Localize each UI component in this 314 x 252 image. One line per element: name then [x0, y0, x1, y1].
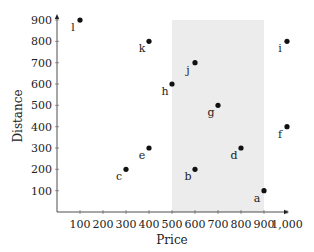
data-point-l: l: [71, 17, 82, 34]
point-label: h: [161, 85, 168, 98]
point-marker: [146, 39, 151, 44]
point-marker: [146, 145, 151, 150]
point-label: c: [116, 170, 122, 183]
y-tick-label: 900: [31, 14, 52, 27]
point-label: g: [207, 106, 214, 119]
y-axis-title: Distance: [11, 89, 25, 142]
scatter-chart: 1002003004005006007008009001,000 1002003…: [0, 0, 314, 252]
point-label: a: [254, 192, 261, 205]
y-axis-arrow-icon: [55, 14, 59, 19]
point-marker: [123, 167, 128, 172]
x-tick-label: 500: [162, 218, 183, 231]
point-label: i: [278, 42, 282, 55]
point-marker: [284, 124, 289, 129]
data-point-i: i: [278, 39, 289, 56]
x-axis-arrow-icon: [284, 210, 289, 214]
x-tick-label: 300: [116, 218, 137, 231]
data-point-e: e: [139, 145, 152, 162]
point-label: l: [71, 21, 75, 34]
y-tick-label: 600: [31, 78, 52, 91]
x-tick-label: 1,000: [271, 218, 303, 231]
data-point-c: c: [116, 167, 129, 184]
y-tick-label: 300: [31, 142, 52, 155]
y-tick-label: 400: [31, 121, 52, 134]
point-marker: [169, 81, 174, 86]
x-tick-label: 400: [139, 218, 160, 231]
y-tick-label: 100: [31, 185, 52, 198]
y-tick-label: 700: [31, 57, 52, 70]
point-marker: [238, 145, 243, 150]
point-label: k: [139, 42, 146, 55]
point-marker: [215, 103, 220, 108]
x-tick-label: 100: [70, 218, 91, 231]
x-axis-ticks: 1002003004005006007008009001,000: [70, 210, 303, 231]
y-tick-label: 500: [31, 99, 52, 112]
data-point-k: k: [139, 39, 152, 56]
y-axis-ticks: 100200300400500600700800900: [31, 14, 59, 198]
x-tick-label: 800: [231, 218, 252, 231]
point-marker: [77, 17, 82, 22]
point-label: f: [278, 128, 283, 141]
point-label: b: [184, 170, 191, 183]
point-marker: [192, 167, 197, 172]
point-label: d: [230, 149, 237, 162]
x-tick-label: 200: [93, 218, 114, 231]
point-marker: [192, 60, 197, 65]
point-marker: [261, 188, 266, 193]
data-point-f: f: [278, 124, 290, 141]
y-tick-label: 800: [31, 35, 52, 48]
x-tick-label: 600: [185, 218, 206, 231]
point-marker: [284, 39, 289, 44]
x-tick-label: 700: [208, 218, 229, 231]
y-tick-label: 200: [31, 163, 52, 176]
point-label: e: [139, 149, 146, 162]
x-axis-title: Price: [156, 233, 187, 247]
